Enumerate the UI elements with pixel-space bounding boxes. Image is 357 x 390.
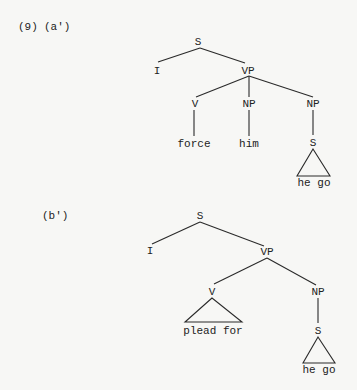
tree-b-embedded-s: S [315, 325, 322, 337]
tree-a-force: force [177, 138, 210, 150]
tree-a-np2: NP [306, 98, 320, 110]
tree-a: S I VP V NP NP force him S he go [154, 36, 331, 189]
label-b: (b') [42, 210, 68, 222]
tree-a-he-go: he go [297, 177, 330, 189]
tree-a-s: S [195, 36, 202, 48]
tree-a-i: I [154, 65, 161, 77]
tree-b-plead-for: plead for [183, 325, 242, 337]
example-number: (9) [18, 21, 38, 33]
tree-b-v: V [209, 286, 216, 298]
tree-b-np: NP [311, 286, 325, 298]
syntax-tree-diagram: (9) (a') S I VP V NP NP force him S he g… [0, 0, 357, 390]
label-a: (a') [44, 21, 70, 33]
tree-a-him: him [239, 138, 259, 150]
tree-b-vp: VP [260, 246, 274, 258]
tree-a-vp: VP [241, 65, 255, 77]
tree-a-v: V [192, 98, 199, 110]
tree-b-i: I [147, 245, 154, 257]
tree-a-embedded-s: S [310, 137, 317, 149]
tree-a-np1: NP [242, 98, 256, 110]
tree-b-s: S [197, 210, 204, 222]
tree-b-he-go: he go [302, 364, 335, 376]
tree-b: S I VP V NP plead for S he go [147, 210, 336, 376]
